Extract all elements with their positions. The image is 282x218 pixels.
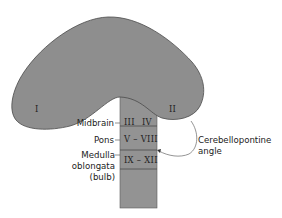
midbrain-label: Midbrain [77, 118, 114, 128]
medulla-label-line1: Medulla [81, 150, 115, 160]
nerve-iii-label: III [124, 117, 135, 127]
angle-label-line2: angle [198, 146, 222, 156]
diagram-canvas [0, 0, 282, 218]
nerves-v-viii-label: V – VIII [124, 134, 158, 144]
medulla-label-line3: (bulb) [90, 172, 115, 182]
angle-label-line1: Cerebellopontine [198, 135, 271, 145]
nerve-iv-label: IV [142, 117, 152, 127]
arrowhead-icon [157, 149, 161, 153]
medulla-label-line2: oblongata [72, 161, 115, 171]
hemisphere-left-label: I [35, 104, 39, 114]
pons-label: Pons [94, 135, 114, 145]
hemisphere-right-label: II [169, 104, 176, 114]
nerves-ix-xii-label: IX – XII [124, 155, 158, 165]
angle-arrow [159, 121, 197, 156]
